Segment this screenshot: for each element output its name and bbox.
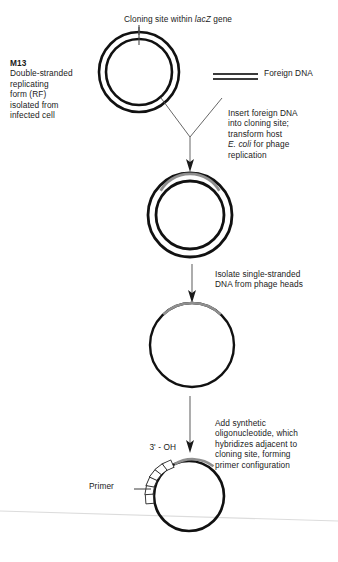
cloning-site-suffix: gene: [211, 14, 232, 24]
insert-step-line3: transform host: [228, 129, 282, 139]
insert-step-line5: replication: [228, 150, 267, 160]
label-add-oligo-step: Add synthetic oligonucleotide, which hyb…: [215, 418, 338, 470]
cloning-site-prefix: Cloning site within: [124, 14, 195, 24]
primer-oligo-blocks: [145, 460, 174, 504]
ssdna-cloning-site-arc: [163, 303, 220, 314]
label-isolate-step: Isolate single-stranded DNA from phage h…: [215, 269, 338, 290]
figure-root: Cloning site within lacZ gene M13Double-…: [0, 0, 338, 562]
insert-step-line4: for phage: [251, 139, 289, 149]
stage-double-stranded-rf: [99, 25, 179, 112]
m13-heading: M13: [10, 58, 26, 68]
recombinant-outer-strand: [148, 173, 232, 257]
insert-step-line1: Insert foreign DNA: [228, 108, 298, 118]
stage-primed-template: [145, 459, 224, 531]
label-m13-caption: M13Double-stranded replicating form (RF)…: [10, 58, 102, 120]
ssdna-strand: [150, 303, 234, 387]
isolate-ssdna-arrow: [188, 264, 196, 303]
foreign-dna-icon: [213, 74, 258, 79]
rf-inner-strand: [106, 39, 172, 105]
stage-single-stranded-dna: [150, 303, 234, 387]
insert-step-line2: into cloning site;: [228, 118, 289, 128]
insert-step-organism: E. coli: [228, 139, 251, 149]
foreign-dna-join-arrow: [161, 98, 222, 172]
add-oligo-arrow: [186, 396, 194, 453]
recombinant-inner-strand: [156, 181, 224, 249]
label-foreign-dna: Foreign DNA: [264, 68, 338, 78]
label-insert-step: Insert foreign DNAinto cloning site;tran…: [228, 108, 338, 160]
stage-recombinant-rf: [148, 173, 232, 257]
label-primer: Primer: [89, 481, 135, 491]
label-cloning-site: Cloning site within lacZ gene: [124, 14, 334, 24]
cloning-site-gene-name: lacZ: [195, 14, 211, 24]
scan-line-artifact: [0, 511, 338, 521]
m13-body: Double-stranded replicating form (RF) is…: [10, 68, 73, 120]
label-three-prime-oh: 3' - OH: [116, 442, 176, 452]
